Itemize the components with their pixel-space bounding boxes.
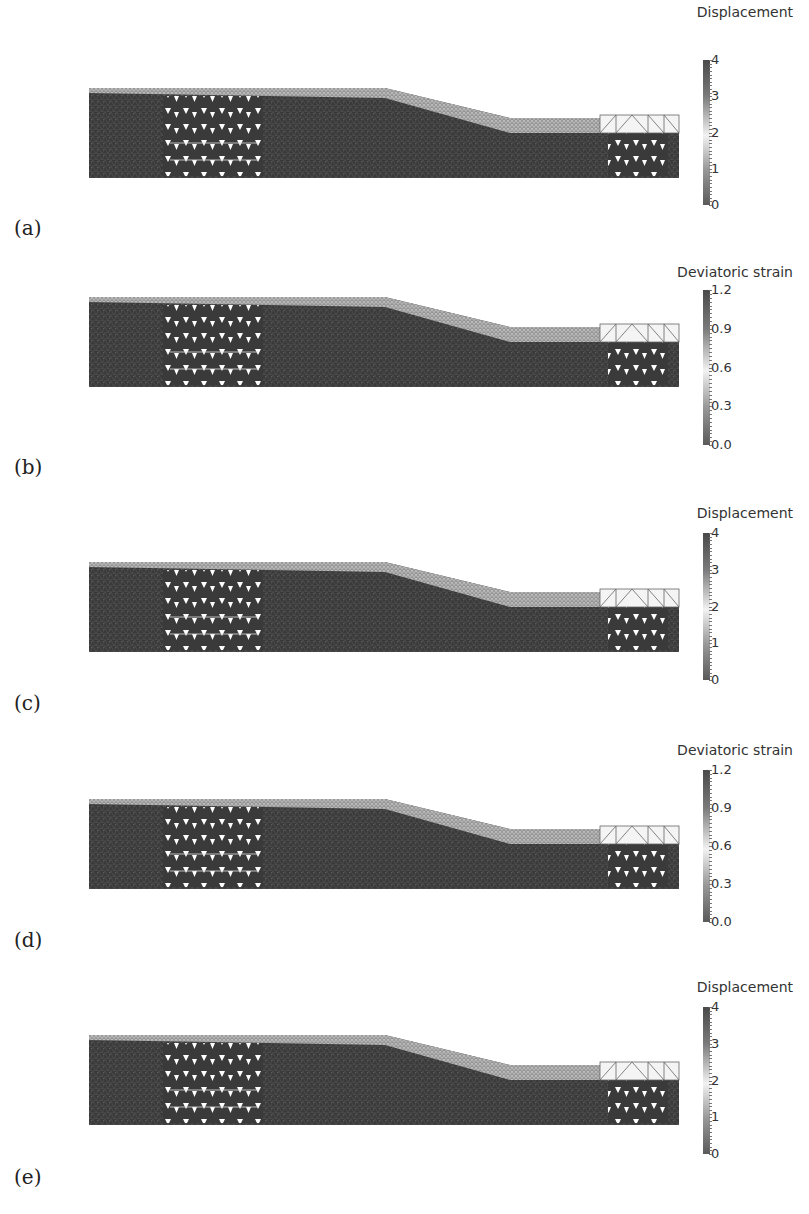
- colorbar-minor-tick: [709, 147, 712, 148]
- colorbar-minor-tick: [709, 71, 712, 72]
- colorbar-minor-tick: [709, 643, 712, 644]
- colorbar-minor-tick: [709, 607, 712, 608]
- colorbar-minor-tick: [709, 1125, 712, 1126]
- colorbar-minor-tick: [709, 391, 712, 392]
- colorbar-minor-tick: [709, 340, 712, 341]
- colorbar-minor-tick: [709, 191, 712, 192]
- colorbar-minor-tick: [709, 823, 712, 824]
- colorbar-minor-tick: [709, 395, 712, 396]
- colorbar-minor-tick: [709, 625, 712, 626]
- colorbar-minor-tick: [709, 831, 712, 832]
- colorbar-minor-tick: [709, 827, 712, 828]
- colorbar-minor-tick: [709, 162, 712, 163]
- colorbar-minor-tick: [709, 198, 712, 199]
- colorbar-minor-tick: [709, 437, 712, 438]
- colorbar-minor-tick: [709, 540, 712, 541]
- colorbar-minor-tick: [709, 183, 712, 184]
- colorbar-minor-tick: [709, 1139, 712, 1140]
- colorbar-minor-tick: [709, 125, 712, 126]
- colorbar-minor-tick: [709, 544, 712, 545]
- colorbar-minor-tick: [709, 865, 712, 866]
- colorbar-minor-tick: [709, 857, 712, 858]
- colorbar-minor-tick: [709, 599, 712, 600]
- colorbar-minor-tick: [709, 100, 712, 101]
- colorbar-tick-label: 0: [711, 198, 719, 211]
- colorbar-minor-tick: [709, 654, 712, 655]
- colorbar-tick-label: 0.0: [711, 915, 732, 928]
- colorbar-tick-label: 0.9: [711, 801, 732, 814]
- colorbar-minor-tick: [709, 647, 712, 648]
- colorbar-tick-label: 0.3: [711, 877, 732, 890]
- panel-label: (c): [14, 691, 41, 715]
- colorbar-minor-tick: [709, 1073, 712, 1074]
- colorbar-minor-tick: [709, 1014, 712, 1015]
- colorbar-minor-tick: [709, 673, 712, 674]
- colorbar-minor-tick: [709, 800, 712, 801]
- colorbar-minor-tick: [709, 187, 712, 188]
- colorbar-minor-tick: [709, 793, 712, 794]
- colorbar-tick-label: 0.6: [711, 361, 732, 374]
- colorbar-minor-tick: [709, 658, 712, 659]
- colorbar-minor-tick: [709, 82, 712, 83]
- colorbar-minor-tick: [709, 64, 712, 65]
- colorbar-tick-label: 0.6: [711, 839, 732, 852]
- colorbar-tick-label: 0.0: [711, 438, 732, 451]
- colorbar-minor-tick: [709, 194, 712, 195]
- colorbar-minor-tick: [709, 911, 712, 912]
- colorbar-minor-tick: [709, 570, 712, 571]
- colorbar-minor-tick: [709, 566, 712, 567]
- colorbar-minor-tick: [709, 129, 712, 130]
- colorbar-minor-tick: [709, 154, 712, 155]
- colorbar-minor-tick: [709, 651, 712, 652]
- colorbar-minor-tick: [709, 680, 712, 681]
- colorbar-tick-label: 1: [711, 1110, 719, 1123]
- colorbar-minor-tick: [709, 96, 712, 97]
- colorbar-tick-label: 2: [711, 600, 719, 613]
- colorbar-minor-tick: [709, 375, 712, 376]
- colorbar-minor-tick: [709, 1121, 712, 1122]
- colorbar-tick-label: 1: [711, 636, 719, 649]
- colorbar-minor-tick: [709, 1069, 712, 1070]
- colorbar-minor-tick: [709, 533, 712, 534]
- colorbar-minor-tick: [709, 838, 712, 839]
- colorbar-minor-tick: [709, 1066, 712, 1067]
- colorbar-minor-tick: [709, 1106, 712, 1107]
- colorbar-minor-tick: [709, 136, 712, 137]
- colorbar-minor-tick: [709, 60, 712, 61]
- colorbar-minor-tick: [709, 918, 712, 919]
- colorbar-minor-tick: [709, 1150, 712, 1151]
- colorbar-minor-tick: [709, 410, 712, 411]
- slope-mesh: [0, 562, 809, 672]
- colorbar-minor-tick: [709, 835, 712, 836]
- colorbar-minor-tick: [709, 1040, 712, 1041]
- colorbar-minor-tick: [709, 873, 712, 874]
- colorbar-minor-tick: [709, 846, 712, 847]
- colorbar-minor-tick: [709, 383, 712, 384]
- colorbar-minor-tick: [709, 884, 712, 885]
- colorbar-minor-tick: [709, 903, 712, 904]
- colorbar-minor-tick: [709, 329, 712, 330]
- colorbar-title: Deviatoric strain: [677, 264, 793, 280]
- colorbar-minor-tick: [709, 662, 712, 663]
- colorbar-minor-tick: [709, 67, 712, 68]
- colorbar-minor-tick: [709, 107, 712, 108]
- colorbar-minor-tick: [709, 592, 712, 593]
- colorbar-minor-tick: [709, 387, 712, 388]
- colorbar-minor-tick: [709, 1036, 712, 1037]
- colorbar-minor-tick: [709, 1022, 712, 1023]
- colorbar-minor-tick: [709, 895, 712, 896]
- colorbar-minor-tick: [709, 778, 712, 779]
- colorbar-minor-tick: [709, 1025, 712, 1026]
- colorbar-minor-tick: [709, 819, 712, 820]
- colorbar-minor-tick: [709, 551, 712, 552]
- colorbar-minor-tick: [709, 1084, 712, 1085]
- colorbar-minor-tick: [709, 588, 712, 589]
- colorbar-minor-tick: [709, 1147, 712, 1148]
- colorbar-minor-tick: [709, 426, 712, 427]
- colorbar-minor-tick: [709, 325, 712, 326]
- colorbar-title: Displacement: [697, 979, 793, 995]
- colorbar-minor-tick: [709, 430, 712, 431]
- colorbar-minor-tick: [709, 406, 712, 407]
- colorbar-minor-tick: [709, 899, 712, 900]
- colorbar-minor-tick: [709, 559, 712, 560]
